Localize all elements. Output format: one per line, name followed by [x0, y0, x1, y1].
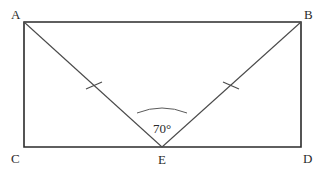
congruence-tick-ae-icon	[86, 82, 102, 89]
vertex-label-b: B	[304, 7, 313, 22]
segment-ae	[24, 22, 162, 147]
congruence-tick-be-icon	[223, 82, 239, 89]
vertex-label-d: D	[303, 151, 312, 166]
geometry-diagram: 70° A B C D E	[0, 0, 329, 174]
vertex-label-a: A	[11, 7, 21, 22]
figure-canvas: 70° A B C D E	[0, 0, 329, 174]
vertex-label-c: C	[11, 151, 20, 166]
segment-be	[162, 22, 301, 147]
angle-measure-label: 70°	[153, 121, 171, 136]
angle-arc-at-e	[137, 108, 187, 113]
vertex-label-e: E	[158, 152, 166, 167]
